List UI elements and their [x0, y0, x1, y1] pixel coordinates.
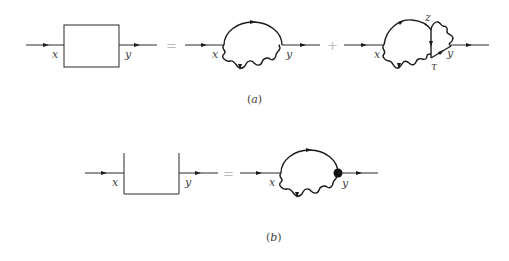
- arrow-icon: [43, 43, 49, 47]
- arrow-icon: [195, 171, 201, 175]
- closed-box: [64, 25, 119, 67]
- arrow-icon: [306, 148, 312, 152]
- label-y: y: [124, 48, 132, 61]
- photon-wavy-line-top: [431, 22, 453, 46]
- arrow-icon: [398, 20, 404, 25]
- fermion-arc: [384, 20, 431, 45]
- arrow-icon: [361, 43, 367, 47]
- label-z: z: [424, 11, 431, 24]
- arrow-icon: [466, 43, 472, 47]
- feynman-diagram-canvas: x y = x y +: [0, 0, 509, 261]
- equals-sign: =: [223, 166, 234, 181]
- arrow-icon: [300, 43, 306, 47]
- arrow-icon: [250, 20, 256, 24]
- panel-b-lhs-open-box-diagram: x y: [85, 153, 218, 194]
- fermion-arc: [281, 150, 338, 173]
- panel-b: x y = x y (b): [85, 148, 378, 244]
- label-x: x: [269, 176, 276, 189]
- label-x: x: [52, 48, 59, 61]
- label-x: x: [374, 48, 381, 61]
- label-x: x: [212, 48, 219, 61]
- label-y: y: [285, 48, 293, 61]
- panel-a-term1-self-energy: x y: [185, 20, 320, 70]
- photon-wavy-line: [223, 45, 280, 68]
- label-y: y: [184, 176, 192, 189]
- label-y: y: [446, 47, 454, 60]
- panel-b-term1-dressed-self-energy: x y: [240, 148, 378, 198]
- arrow-icon: [438, 50, 444, 55]
- panel-a-term2-vertex-correction: x y z τ: [344, 11, 489, 73]
- arrow-icon: [429, 41, 433, 47]
- panel-a-lhs-box-diagram: x y: [26, 25, 157, 67]
- arrow-icon: [134, 43, 140, 47]
- arrow-icon: [256, 171, 262, 175]
- label-tau: τ: [431, 60, 438, 73]
- plus-sign: +: [327, 38, 338, 53]
- fermion-arc: [224, 22, 282, 45]
- label-y: y: [341, 177, 349, 190]
- arrow-icon: [201, 43, 207, 47]
- equals-sign: =: [166, 38, 177, 53]
- label-x: x: [112, 176, 119, 189]
- photon-wavy-line-bottom: [383, 45, 431, 68]
- open-box: [124, 153, 179, 194]
- caption-b: (b): [266, 231, 282, 244]
- caption-a: (a): [247, 93, 262, 106]
- panel-a: x y = x y +: [26, 11, 489, 106]
- arrow-icon: [101, 171, 107, 175]
- photon-wavy-line: [280, 173, 337, 196]
- arrow-icon: [356, 171, 362, 175]
